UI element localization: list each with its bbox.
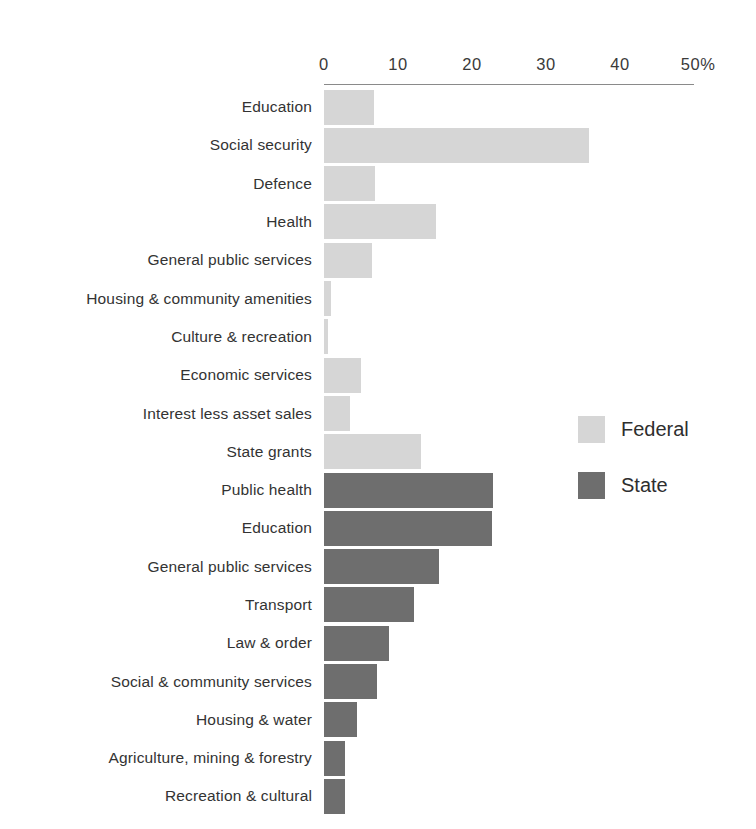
bar-track (324, 626, 389, 661)
legend-label: Federal (621, 418, 689, 441)
bar-federal[interactable] (324, 90, 374, 125)
bar-row: Culture & recreation (0, 318, 756, 356)
legend-label: State (621, 474, 668, 497)
bar-track (324, 90, 374, 125)
bar-row-label: Health (266, 213, 312, 231)
bar-row: General public services (0, 241, 756, 279)
bar-state[interactable] (324, 587, 414, 622)
bar-row-label: Economic services (180, 366, 312, 384)
bar-track (324, 396, 350, 431)
bar-state[interactable] (324, 741, 345, 776)
bar-federal[interactable] (324, 434, 421, 469)
bar-row-label: Housing & community amenities (86, 290, 312, 308)
bar-state[interactable] (324, 626, 389, 661)
bar-row-label: Social & community services (111, 673, 312, 691)
bar-state[interactable] (324, 511, 492, 546)
bar-row: Law & order (0, 624, 756, 662)
bar-track (324, 434, 421, 469)
bar-row-label: Recreation & cultural (165, 787, 312, 805)
bar-track (324, 358, 361, 393)
x-axis-tick-labels: 01020304050% (0, 55, 756, 81)
chart-legend: FederalState (578, 412, 738, 524)
bar-row: General public services (0, 548, 756, 586)
x-axis-line (324, 84, 694, 85)
bar-state[interactable] (324, 664, 377, 699)
bar-track (324, 702, 357, 737)
legend-item[interactable]: Federal (578, 412, 738, 446)
bar-row: Education (0, 88, 756, 126)
bar-row-label: Agriculture, mining & forestry (109, 749, 313, 767)
bar-row: Social security (0, 126, 756, 164)
bar-state[interactable] (324, 779, 345, 814)
bar-row-label: General public services (147, 251, 312, 269)
bar-track (324, 281, 331, 316)
bar-track (324, 204, 436, 239)
bar-track (324, 166, 375, 201)
bar-state[interactable] (324, 549, 439, 584)
bar-row: Defence (0, 165, 756, 203)
bar-track (324, 779, 345, 814)
bar-federal[interactable] (324, 243, 372, 278)
bar-federal[interactable] (324, 358, 361, 393)
bar-row: Transport (0, 586, 756, 624)
bar-row-label: Law & order (227, 634, 312, 652)
bar-row-label: State grants (227, 443, 312, 461)
bar-federal[interactable] (324, 166, 375, 201)
bar-track (324, 243, 372, 278)
legend-swatch-icon (578, 416, 605, 443)
x-tick-label: 30 (536, 55, 556, 74)
x-tick-label: 20 (462, 55, 482, 74)
legend-item[interactable]: State (578, 468, 738, 502)
bar-row-label: Interest less asset sales (143, 405, 312, 423)
bar-row: Recreation & cultural (0, 777, 756, 815)
bar-state[interactable] (324, 473, 493, 508)
bar-row: Housing & water (0, 701, 756, 739)
bar-row: Health (0, 203, 756, 241)
bar-track (324, 128, 589, 163)
bar-state[interactable] (324, 702, 357, 737)
x-tick-label: 0 (319, 55, 329, 74)
legend-swatch-icon (578, 472, 605, 499)
bar-track (324, 741, 345, 776)
bar-track (324, 549, 439, 584)
bar-row-label: Education (242, 98, 312, 116)
bar-row-label: Transport (245, 596, 312, 614)
bar-federal[interactable] (324, 319, 328, 354)
bar-row: Agriculture, mining & forestry (0, 739, 756, 777)
bar-federal[interactable] (324, 204, 436, 239)
x-tick-label: 50% (681, 55, 716, 74)
bar-row-label: Defence (253, 175, 312, 193)
bar-federal[interactable] (324, 281, 331, 316)
bar-track (324, 664, 377, 699)
bar-chart: 01020304050% EducationSocial securityDef… (0, 0, 756, 829)
bar-row: Economic services (0, 356, 756, 394)
bar-row-label: General public services (147, 558, 312, 576)
bar-track (324, 473, 493, 508)
bar-track (324, 511, 492, 546)
x-tick-label: 40 (610, 55, 630, 74)
bar-track (324, 319, 328, 354)
bar-row-label: Public health (221, 481, 312, 499)
bar-row-label: Housing & water (196, 711, 312, 729)
bar-federal[interactable] (324, 396, 350, 431)
plot-area: 01020304050% EducationSocial securityDef… (0, 0, 756, 829)
bar-federal[interactable] (324, 128, 589, 163)
bar-row-label: Education (242, 519, 312, 537)
bar-track (324, 587, 414, 622)
x-tick-label: 10 (388, 55, 408, 74)
bar-row: Housing & community amenities (0, 279, 756, 317)
bar-row-label: Social security (210, 136, 312, 154)
bar-row-label: Culture & recreation (171, 328, 312, 346)
bar-row: Social & community services (0, 662, 756, 700)
